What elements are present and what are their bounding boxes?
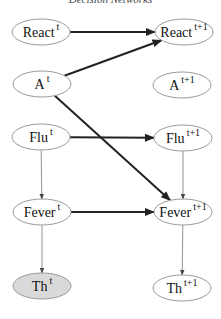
edge-flu_t-to-fever_t <box>41 150 42 199</box>
edge-fever_t1-to-th_t1 <box>182 225 183 275</box>
edges-layer <box>41 32 183 275</box>
edge-flu_t-to-flu_t1 <box>70 137 154 138</box>
node-fever_t1: Fevert+1 <box>154 199 212 225</box>
node-a_t: At <box>13 71 71 97</box>
node-flu_t1: Flut+1 <box>154 125 212 151</box>
node-react_t1: Reactt+1 <box>155 19 213 45</box>
node-th_t: Tht <box>13 273 71 299</box>
node-flu_t: Flut <box>12 124 70 150</box>
node-react_t: Reactt <box>12 19 70 45</box>
node-a_t1: At+1 <box>153 72 211 98</box>
edge-a_t-to-react_t1 <box>64 40 161 76</box>
edge-a_t-to-fever_t1 <box>55 96 170 201</box>
node-fever_t: Fevert <box>13 199 71 225</box>
node-th_t1: Tht+1 <box>153 275 211 301</box>
decision-network-diagram: ReacttReactt+1AtAt+1FlutFlut+1FevertFeve… <box>0 0 221 319</box>
